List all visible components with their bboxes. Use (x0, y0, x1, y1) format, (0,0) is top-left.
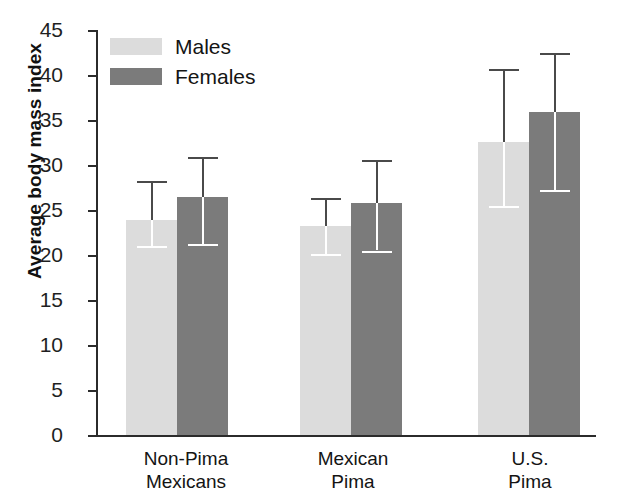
y-axis-line (96, 30, 98, 436)
x-axis-label-group-2: Mexican Pima (263, 447, 443, 493)
figure-container: Average body mass index 45 40 35 30 25 2… (0, 0, 627, 500)
error-bar-lower-females-group-3 (554, 112, 556, 190)
x-axis-line (96, 435, 596, 437)
y-tick-mark (88, 390, 97, 392)
y-tick-mark (88, 165, 97, 167)
error-cap-upper-males-group-2 (311, 198, 341, 200)
error-bar-upper-females-group-1 (202, 157, 204, 198)
y-tick-mark (88, 255, 97, 257)
error-bar-lower-males-group-2 (325, 226, 327, 254)
plot-area: Average body mass index 45 40 35 30 25 2… (0, 0, 627, 500)
legend-item-females: Females (110, 61, 256, 91)
error-bar-lower-females-group-1 (202, 197, 204, 244)
y-tick-mark (88, 210, 97, 212)
error-cap-lower-females-group-2 (362, 251, 392, 253)
legend-item-males: Males (110, 31, 256, 61)
legend: Males Females (110, 31, 256, 91)
y-tick-mark (88, 120, 97, 122)
error-cap-upper-females-group-2 (362, 160, 392, 162)
error-cap-lower-males-group-2 (311, 254, 341, 256)
error-cap-lower-males-group-3 (489, 206, 519, 208)
y-tick-mark (88, 75, 97, 77)
error-cap-upper-males-group-3 (489, 69, 519, 71)
y-tick-label: 0 (17, 424, 63, 445)
error-cap-lower-males-group-1 (137, 246, 167, 248)
bar-males-group-1 (126, 220, 177, 435)
error-cap-lower-females-group-1 (188, 244, 218, 246)
x-label-line-1: Non-Pima (96, 447, 276, 470)
legend-label: Males (175, 36, 231, 57)
legend-swatch-icon (110, 38, 162, 55)
y-tick-label: 45 (17, 19, 63, 40)
y-tick-mark (88, 435, 97, 437)
error-bar-upper-males-group-3 (503, 69, 505, 142)
error-bar-lower-males-group-1 (151, 220, 153, 246)
y-tick-label: 20 (17, 244, 63, 265)
error-bar-upper-females-group-2 (376, 160, 378, 203)
y-tick-label: 25 (17, 199, 63, 220)
y-tick-mark (88, 345, 97, 347)
x-axis-label-group-1: Non-Pima Mexicans (96, 447, 276, 493)
y-tick-label: 5 (17, 379, 63, 400)
error-bar-upper-males-group-2 (325, 198, 327, 226)
y-tick-label: 10 (17, 334, 63, 355)
y-tick-label: 40 (17, 64, 63, 85)
error-cap-upper-females-group-3 (540, 53, 570, 55)
error-bar-upper-females-group-3 (554, 53, 556, 112)
y-tick-mark (88, 30, 97, 32)
legend-label: Females (175, 66, 256, 87)
error-bar-lower-males-group-3 (503, 142, 505, 207)
y-tick-label: 35 (17, 109, 63, 130)
error-cap-lower-females-group-3 (540, 190, 570, 192)
x-label-line-2: Mexicans (96, 470, 276, 493)
y-tick-label: 15 (17, 289, 63, 310)
x-label-line-1: U.S. (440, 447, 620, 470)
error-cap-upper-females-group-1 (188, 157, 218, 159)
y-tick-mark (88, 300, 97, 302)
error-bar-upper-males-group-1 (151, 181, 153, 220)
x-label-line-2: Pima (440, 470, 620, 493)
error-bar-lower-females-group-2 (376, 203, 378, 251)
bar-males-group-2 (300, 226, 351, 435)
x-label-line-2: Pima (263, 470, 443, 493)
legend-swatch-icon (110, 68, 162, 85)
error-cap-upper-males-group-1 (137, 181, 167, 183)
y-tick-label: 30 (17, 154, 63, 175)
x-label-line-1: Mexican (263, 447, 443, 470)
x-axis-label-group-3: U.S. Pima (440, 447, 620, 493)
